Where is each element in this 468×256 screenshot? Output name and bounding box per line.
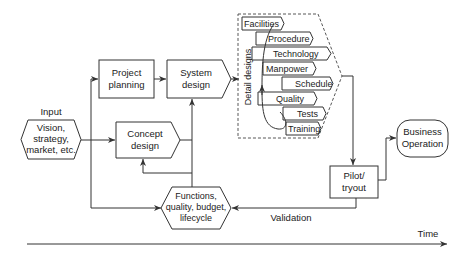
pilot-tryout-node: Pilot/ tryout — [330, 166, 378, 198]
svg-text:Project: Project — [112, 67, 142, 78]
system-design-node: System design — [167, 60, 231, 98]
arrow-feedback-to-concept — [143, 159, 192, 173]
svg-text:design: design — [182, 79, 210, 90]
detail-item-facilities: Facilities — [242, 17, 284, 30]
svg-text:market, etc.: market, etc. — [26, 144, 76, 155]
functions-node: Functions, quality, budget, lifecycle — [161, 187, 231, 229]
arrow-pilot-to-business — [378, 138, 396, 180]
svg-text:Concept: Concept — [127, 128, 163, 139]
arrow-detail-to-pilot — [342, 76, 353, 165]
validation-label: Validation — [270, 212, 311, 223]
svg-text:tryout: tryout — [342, 182, 366, 193]
process-flow-diagram: Input Vision, strategy, market, etc. Pro… — [0, 0, 468, 256]
svg-text:Pilot/: Pilot/ — [343, 170, 364, 181]
input-node: Vision, strategy, market, etc. — [21, 120, 81, 159]
svg-text:Procedure: Procedure — [268, 34, 310, 44]
svg-text:Technology: Technology — [273, 49, 319, 59]
arrow-to-project-planning — [91, 79, 98, 208]
detail-item-manpower: Manpower — [263, 62, 316, 75]
svg-text:planning: planning — [109, 79, 145, 90]
detail-item-training: Training — [286, 122, 321, 135]
svg-text:quality, budget,: quality, budget, — [166, 202, 226, 212]
svg-text:Functions,: Functions, — [175, 191, 217, 201]
svg-text:Schedule: Schedule — [295, 79, 333, 89]
svg-text:Facilities: Facilities — [244, 19, 280, 29]
detail-item-tests: Tests — [283, 107, 326, 120]
project-planning-node: Project planning — [99, 60, 154, 98]
svg-text:Operation: Operation — [402, 138, 444, 149]
svg-text:design: design — [131, 140, 159, 151]
svg-text:Business: Business — [403, 126, 442, 137]
svg-text:Quality: Quality — [276, 94, 305, 104]
svg-text:strategy,: strategy, — [33, 133, 69, 144]
time-label: Time — [418, 228, 439, 239]
svg-text:lifecycle: lifecycle — [180, 213, 212, 223]
detail-item-quality: Quality — [258, 92, 317, 105]
svg-text:Training: Training — [288, 124, 320, 134]
arrow-validation — [232, 198, 356, 208]
svg-text:Manpower: Manpower — [266, 64, 308, 74]
svg-text:Vision,: Vision, — [37, 122, 65, 133]
business-operation-node: Business Operation — [397, 120, 448, 157]
detail-item-schedule: Schedule — [282, 77, 333, 90]
svg-text:Tests: Tests — [297, 109, 319, 119]
concept-design-node: Concept design — [116, 122, 180, 158]
svg-text:System: System — [180, 67, 212, 78]
input-label: Input — [40, 106, 61, 117]
detail-designs-group: Detail designs Facilities Procedure Tech… — [238, 14, 342, 138]
detail-item-procedure: Procedure — [256, 32, 313, 45]
